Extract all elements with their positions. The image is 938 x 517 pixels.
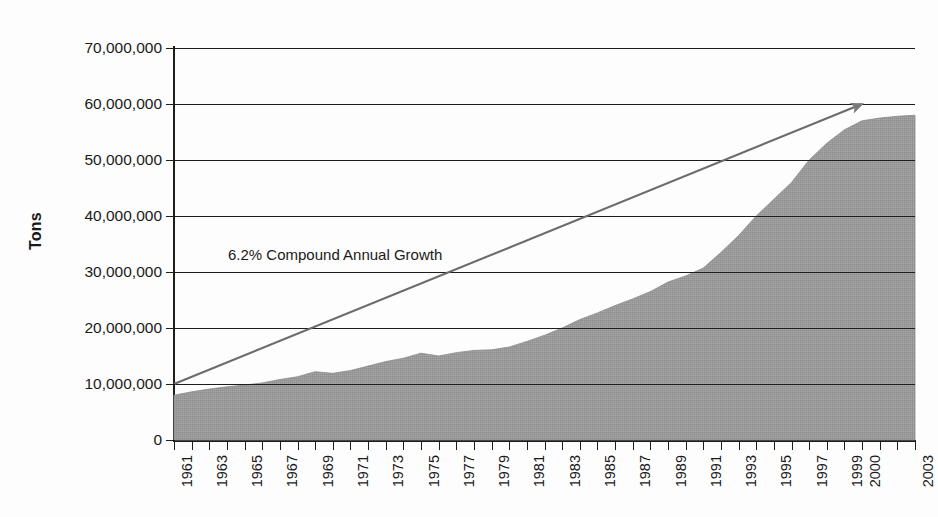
y-axis-tick-label: 60,000,000 — [84, 96, 162, 112]
x-axis-tick-mark — [668, 441, 669, 450]
x-axis-tick-mark — [527, 441, 528, 450]
y-axis-tick-mark — [166, 160, 175, 161]
x-axis-tick-mark — [262, 441, 263, 450]
x-axis-tick-mark — [739, 441, 740, 450]
x-axis-tick-mark — [562, 441, 563, 450]
x-axis-tick-label: 1967 — [285, 455, 300, 487]
x-axis-tick-label: 1979 — [497, 455, 512, 487]
x-axis-tick-mark — [650, 441, 651, 450]
x-axis-tick-mark — [756, 441, 757, 450]
x-axis-tick-mark — [509, 441, 510, 450]
y-axis-tick-label: 30,000,000 — [84, 264, 162, 280]
x-axis-tick-mark — [474, 441, 475, 450]
x-axis-tick-mark — [386, 441, 387, 450]
x-axis-tick-label: 1971 — [356, 455, 371, 487]
y-axis-tick-label: 50,000,000 — [84, 152, 162, 168]
x-axis-tick-label: 1997 — [815, 455, 830, 487]
x-axis-tick-label: 1965 — [250, 455, 265, 487]
x-axis-tick-mark — [403, 441, 404, 450]
growth-annotation: 6.2% Compound Annual Growth — [228, 246, 442, 263]
x-axis-tick-label: 1961 — [180, 455, 195, 487]
x-axis-tick-label: 1991 — [709, 455, 724, 487]
x-axis-tick-label: 1969 — [321, 455, 336, 487]
x-axis-tick-mark — [809, 441, 810, 450]
y-axis-tick-label: 20,000,000 — [84, 320, 162, 336]
x-axis-tick-mark — [915, 441, 916, 450]
y-axis-tick-label: 40,000,000 — [84, 208, 162, 224]
x-axis-tick-mark — [192, 441, 193, 450]
y-axis-tick-mark — [166, 216, 175, 217]
y-axis-tick-label: 0 — [153, 432, 162, 448]
x-axis-tick-mark — [245, 441, 246, 450]
x-axis-tick-mark — [368, 441, 369, 450]
x-axis-tick-label: 1975 — [427, 455, 442, 487]
x-axis-tick-mark — [350, 441, 351, 450]
y-axis-tick-mark — [166, 328, 175, 329]
x-axis-tick-label: 1993 — [744, 455, 759, 487]
x-axis-tick-label: 2003 — [921, 455, 936, 487]
x-axis-tick-mark — [633, 441, 634, 450]
y-axis-tick-mark — [166, 48, 175, 49]
x-axis-tick-mark — [209, 441, 210, 450]
x-axis-tick-mark — [280, 441, 281, 450]
x-axis-tick-mark — [298, 441, 299, 450]
x-axis-tick-mark — [492, 441, 493, 450]
x-axis-tick-mark — [421, 441, 422, 450]
x-axis-tick-mark — [897, 441, 898, 450]
x-axis-tick-mark — [721, 441, 722, 450]
y-axis-tick-label: 70,000,000 — [84, 40, 162, 56]
y-axis-tick-label: 10,000,000 — [84, 376, 162, 392]
x-axis-tick-mark — [227, 441, 228, 450]
x-axis-tick-mark — [333, 441, 334, 450]
y-axis-tick-mark — [166, 104, 175, 105]
x-axis-tick-mark — [545, 441, 546, 450]
x-axis-tick-label: 1963 — [215, 455, 230, 487]
x-axis-tick-mark — [174, 441, 175, 450]
x-axis-tick-label: 2000 — [868, 455, 883, 487]
x-axis-tick-mark — [456, 441, 457, 450]
area-chart: Tons 70,000,00060,000,00050,000,00040,00… — [0, 0, 938, 517]
x-axis-tick-label: 1989 — [674, 455, 689, 487]
x-axis-tick-label: 1981 — [532, 455, 547, 487]
x-axis-tick-label: 1995 — [779, 455, 794, 487]
y-axis-tick-mark — [166, 384, 175, 385]
x-axis-tick-mark — [880, 441, 881, 450]
x-axis-tick-mark — [686, 441, 687, 450]
x-axis-tick-mark — [315, 441, 316, 450]
x-axis-tick-mark — [615, 441, 616, 450]
y-axis-tick-mark — [166, 272, 175, 273]
x-axis-tick-label: 1999 — [850, 455, 865, 487]
x-axis-tick-mark — [439, 441, 440, 450]
x-axis-tick-mark — [774, 441, 775, 450]
x-axis-tick-mark — [827, 441, 828, 450]
x-axis-tick-label: 1983 — [568, 455, 583, 487]
x-axis-tick-mark — [792, 441, 793, 450]
x-axis-tick-mark — [580, 441, 581, 450]
x-axis-tick-mark — [844, 441, 845, 450]
x-axis-tick-mark — [703, 441, 704, 450]
x-axis-tick-label: 1987 — [638, 455, 653, 487]
x-axis-tick-mark — [862, 441, 863, 450]
trend-arrow — [174, 48, 915, 440]
y-axis-tick-labels: 70,000,00060,000,00050,000,00040,000,000… — [0, 0, 172, 517]
x-axis-tick-label: 1973 — [391, 455, 406, 487]
x-axis-tick-label: 1977 — [462, 455, 477, 487]
x-axis-tick-mark — [597, 441, 598, 450]
x-axis-tick-label: 1985 — [603, 455, 618, 487]
